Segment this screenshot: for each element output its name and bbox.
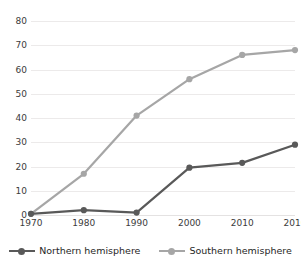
data-point-marker — [292, 47, 298, 53]
data-point-marker — [186, 76, 192, 82]
legend-item[interactable]: Northern hemisphere — [9, 246, 140, 256]
y-axis-tick-label: 40 — [3, 114, 27, 123]
x-axis-tick-label: 1980 — [72, 219, 95, 228]
data-point-marker — [186, 165, 192, 171]
data-point-marker — [81, 171, 87, 177]
series-line — [31, 145, 295, 214]
x-axis-tick-label: 2016 — [284, 219, 301, 228]
legend-label: Southern hemisphere — [189, 246, 291, 256]
legend-item[interactable]: Southern hemisphere — [159, 246, 291, 256]
gridline — [31, 215, 295, 216]
legend-marker-icon — [9, 247, 35, 256]
y-axis-tick-label: 20 — [3, 162, 27, 171]
data-point-marker — [239, 160, 245, 166]
x-axis-tick-label: 1990 — [125, 219, 148, 228]
plot-area — [31, 21, 295, 215]
data-point-marker — [239, 52, 245, 58]
y-axis-tick-label: 70 — [3, 41, 27, 50]
y-axis-tick-label: 60 — [3, 65, 27, 74]
y-axis-tick-label: 50 — [3, 89, 27, 98]
data-point-marker — [81, 207, 87, 213]
series-layer — [31, 21, 295, 215]
x-axis-tick-label: 2000 — [178, 219, 201, 228]
x-axis: 197019801990200020102016 — [31, 219, 295, 235]
x-axis-tick-label: 1970 — [20, 219, 43, 228]
x-axis-tick-label: 2010 — [231, 219, 254, 228]
line-chart: 01020304050607080 1970198019902000201020… — [0, 0, 301, 263]
legend-marker-icon — [159, 247, 185, 256]
data-point-marker — [292, 142, 298, 148]
y-axis-tick-label: 30 — [3, 138, 27, 147]
legend-label: Northern hemisphere — [39, 246, 140, 256]
y-axis-tick-label: 10 — [3, 186, 27, 195]
data-point-marker — [134, 209, 140, 215]
chart-title — [0, 0, 301, 5]
data-point-marker — [28, 211, 34, 217]
data-point-marker — [134, 112, 140, 118]
chart-legend: Northern hemisphereSouthern hemisphere — [0, 241, 301, 261]
y-axis: 01020304050607080 — [0, 21, 27, 215]
y-axis-tick-label: 80 — [3, 17, 27, 26]
